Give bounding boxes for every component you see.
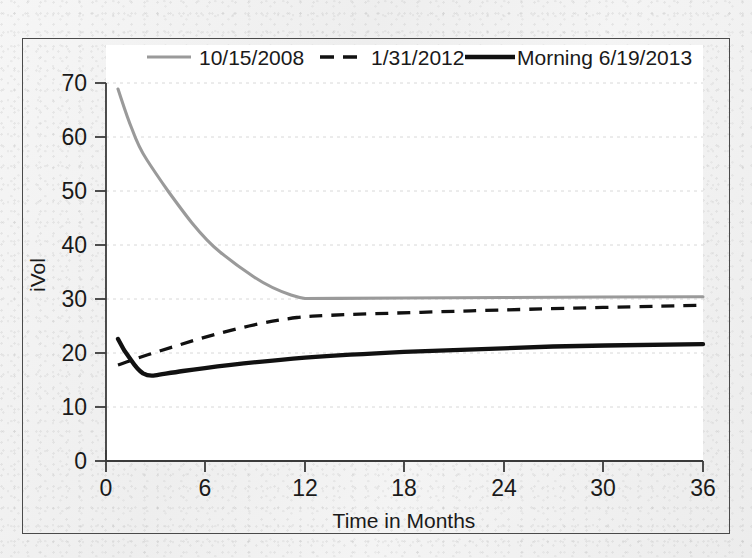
- legend-label-1: 1/31/2012: [371, 46, 464, 69]
- x-tick-label-36: 36: [690, 475, 716, 501]
- x-tick-label-30: 30: [590, 475, 616, 501]
- screenshot-page: 70 60 50 40 30 20 10 0 0 6 12 18 24 30 3…: [0, 0, 752, 558]
- y-tick-label-40: 40: [61, 232, 87, 258]
- x-axis-title: Time in Months: [333, 509, 476, 532]
- x-tick-label-12: 12: [292, 475, 318, 501]
- y-tick-label-50: 50: [61, 178, 87, 204]
- x-tick-labels: 0 6 12 18 24 30 36: [100, 475, 716, 501]
- line-chart: 70 60 50 40 30 20 10 0 0 6 12 18 24 30 3…: [23, 39, 729, 533]
- y-tick-label-70: 70: [61, 70, 87, 96]
- legend-label-0: 10/15/2008: [199, 46, 304, 69]
- plot-area-background: [106, 45, 703, 461]
- legend-label-2: Morning 6/19/2013: [517, 46, 692, 69]
- x-tick-label-24: 24: [491, 475, 517, 501]
- x-tick-label-6: 6: [199, 475, 212, 501]
- y-tick-label-20: 20: [61, 340, 87, 366]
- y-tick-label-30: 30: [61, 286, 87, 312]
- y-axis-title: iVol: [26, 258, 49, 292]
- y-tick-labels: 70 60 50 40 30 20 10 0: [61, 70, 87, 474]
- figure-frame: 70 60 50 40 30 20 10 0 0 6 12 18 24 30 3…: [22, 38, 730, 534]
- x-tick-label-18: 18: [391, 475, 417, 501]
- legend: 10/15/2008 1/31/2012 Morning 6/19/2013: [147, 46, 692, 69]
- y-axis: [95, 83, 106, 461]
- y-tick-label-60: 60: [61, 124, 87, 150]
- x-tick-label-0: 0: [100, 475, 113, 501]
- y-tick-label-10: 10: [61, 394, 87, 420]
- y-tick-label-0: 0: [74, 448, 87, 474]
